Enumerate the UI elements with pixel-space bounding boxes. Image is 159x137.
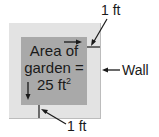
bottom-leader-arrow-icon — [41, 109, 66, 124]
bottom-dimension-label: 1 ft — [67, 118, 86, 134]
right-arrow-icon — [64, 40, 82, 45]
wall-arrow-icon — [102, 68, 120, 73]
down-arrow-icon — [26, 82, 31, 100]
top-dimension-label: 1 ft — [101, 2, 120, 18]
wall-label: Wall — [122, 62, 149, 78]
top-leader-arrow-icon — [91, 19, 107, 46]
